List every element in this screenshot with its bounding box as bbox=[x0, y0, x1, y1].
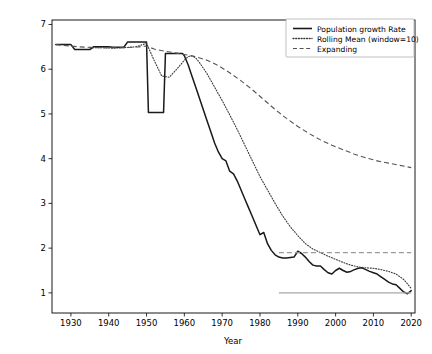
y-tick-label: 6 bbox=[41, 64, 46, 74]
legend-label-expanding: Expanding bbox=[317, 45, 357, 54]
chart-figure: 1234567 19301940195019601970198019902000… bbox=[0, 0, 432, 354]
x-axis-title: Year bbox=[223, 336, 243, 346]
legend-label-rolling-mean: Rolling Mean (window=10) bbox=[317, 35, 419, 44]
legend-label-population-growth-rate: Population growth Rate bbox=[317, 25, 406, 34]
y-tick-label: 1 bbox=[41, 288, 46, 298]
chart-legend: Population growth Rate Rolling Mean (win… bbox=[286, 19, 419, 57]
population-growth-rate-chart: 1234567 19301940195019601970198019902000… bbox=[0, 0, 432, 354]
x-tick-label: 2020 bbox=[400, 318, 422, 328]
x-tick-label: 2000 bbox=[325, 318, 347, 328]
x-tick-label: 1940 bbox=[98, 318, 120, 328]
y-tick-label: 4 bbox=[41, 154, 46, 164]
y-tick-label: 3 bbox=[41, 198, 46, 208]
x-tick-label: 2010 bbox=[363, 318, 385, 328]
y-tick-label: 5 bbox=[41, 109, 46, 119]
y-tick-label: 7 bbox=[41, 19, 46, 29]
x-tick-label: 1990 bbox=[287, 318, 309, 328]
x-tick-label: 1950 bbox=[136, 318, 158, 328]
x-tick-label: 1930 bbox=[60, 318, 82, 328]
x-tick-label: 1960 bbox=[174, 318, 196, 328]
x-tick-label: 1980 bbox=[249, 318, 271, 328]
y-tick-label: 2 bbox=[41, 243, 46, 253]
x-tick-label: 1970 bbox=[211, 318, 233, 328]
